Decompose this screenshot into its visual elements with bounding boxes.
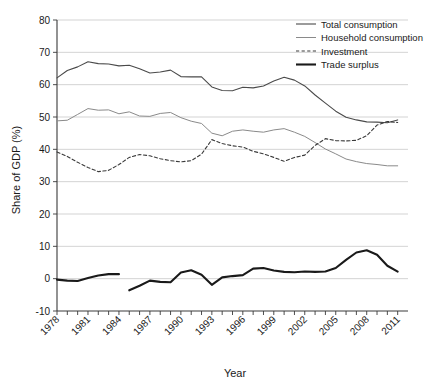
series-line-trade-surplus-seg2 [129, 250, 397, 290]
x-tick-labels-group: 1978198119841987199019931996199920022005… [38, 313, 402, 337]
x-tick-label-1984: 1984 [100, 313, 124, 337]
x-tick-label-2011: 2011 [379, 313, 402, 336]
y-tick-label--10: -10 [36, 306, 51, 317]
x-tick-label-1993: 1993 [193, 313, 217, 337]
legend-label-household-consumption: Household consumption [321, 32, 423, 43]
legend-label-trade-surplus: Trade surplus [321, 59, 379, 70]
x-tick-label-2008: 2008 [348, 313, 372, 337]
x-tick-label-1999: 1999 [255, 313, 279, 337]
y-tick-label-20: 20 [39, 209, 51, 220]
chart-legend: Total consumptionHousehold consumptionIn… [296, 19, 423, 71]
x-tick-label-2005: 2005 [317, 313, 341, 337]
series-line-investment [57, 122, 398, 172]
y-tick-label-0: 0 [44, 273, 50, 284]
y-tick-label-30: 30 [39, 176, 51, 187]
series-line-trade-surplus-seg1 [57, 274, 119, 281]
y-tick-label-10: 10 [39, 241, 51, 252]
y-tick-label-40: 40 [39, 144, 51, 155]
y-tick-label-50: 50 [39, 112, 51, 123]
y-tick-label-70: 70 [39, 47, 51, 58]
legend-label-total-consumption: Total consumption [321, 19, 398, 30]
y-tick-label-80: 80 [39, 15, 51, 26]
x-tick-label-1990: 1990 [162, 313, 186, 337]
legend-label-investment: Investment [321, 46, 368, 57]
x-tick-label-1978: 1978 [38, 313, 62, 337]
chart-figure: -1001020304050607080 1978198119841987199… [0, 0, 427, 384]
y-tick-label-60: 60 [39, 79, 51, 90]
y-tick-labels-group: -1001020304050607080 [36, 15, 51, 317]
x-tick-label-1981: 1981 [69, 313, 93, 337]
x-tick-label-1987: 1987 [131, 313, 155, 337]
x-tick-label-2002: 2002 [286, 313, 310, 337]
x-axis-title: Year [224, 367, 247, 379]
series-line-total-consumption [57, 62, 398, 123]
x-tick-label-1996: 1996 [224, 313, 248, 337]
data-series-group [57, 62, 398, 291]
x-tick-marks-group [57, 311, 398, 315]
y-axis-title: Share of GDP (%) [10, 126, 22, 214]
chart-canvas: -1001020304050607080 1978198119841987199… [0, 0, 427, 384]
